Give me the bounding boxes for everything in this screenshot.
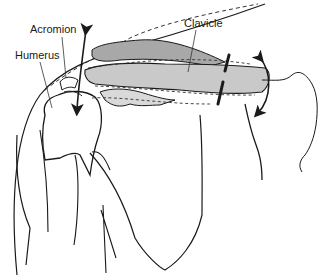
humerus-head <box>43 91 102 175</box>
shoulder-anatomy-drawing <box>0 0 323 275</box>
sternum-outline <box>262 72 317 172</box>
acromion-label: Acromion <box>30 24 76 35</box>
chest-wall-line <box>245 104 262 180</box>
scapula-outline <box>90 115 202 270</box>
scapula-spine-lines <box>101 205 116 273</box>
acromion-fragment-upper <box>92 40 225 66</box>
shoulder-diagram: Acromion Humerus Clavicle <box>0 0 323 275</box>
humerus-label: Humerus <box>15 50 60 61</box>
acromion-leader <box>62 37 66 78</box>
clavicle-label: Clavicle <box>184 18 223 29</box>
humerus-shaft <box>74 155 78 245</box>
